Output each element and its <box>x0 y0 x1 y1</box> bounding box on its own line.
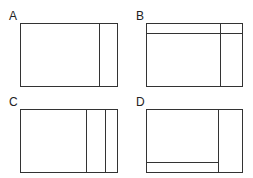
panel-d-horizontal-divider <box>146 162 218 163</box>
panel-c-vertical-divider-1 <box>86 109 87 173</box>
panel-b-label: B <box>136 10 144 22</box>
panel-c-label: C <box>9 96 18 108</box>
panel-d-box <box>146 109 243 173</box>
panel-b-vertical-divider <box>220 23 221 87</box>
panel-d-label: D <box>136 96 145 108</box>
panel-a-vertical-divider <box>99 23 100 87</box>
panel-a-label: A <box>9 10 17 22</box>
panel-a-box <box>20 23 118 87</box>
panel-c-vertical-divider-2 <box>105 109 106 173</box>
panel-d-vertical-divider <box>218 109 219 173</box>
panel-c-box <box>20 109 118 173</box>
panel-b-horizontal-divider <box>146 33 243 34</box>
